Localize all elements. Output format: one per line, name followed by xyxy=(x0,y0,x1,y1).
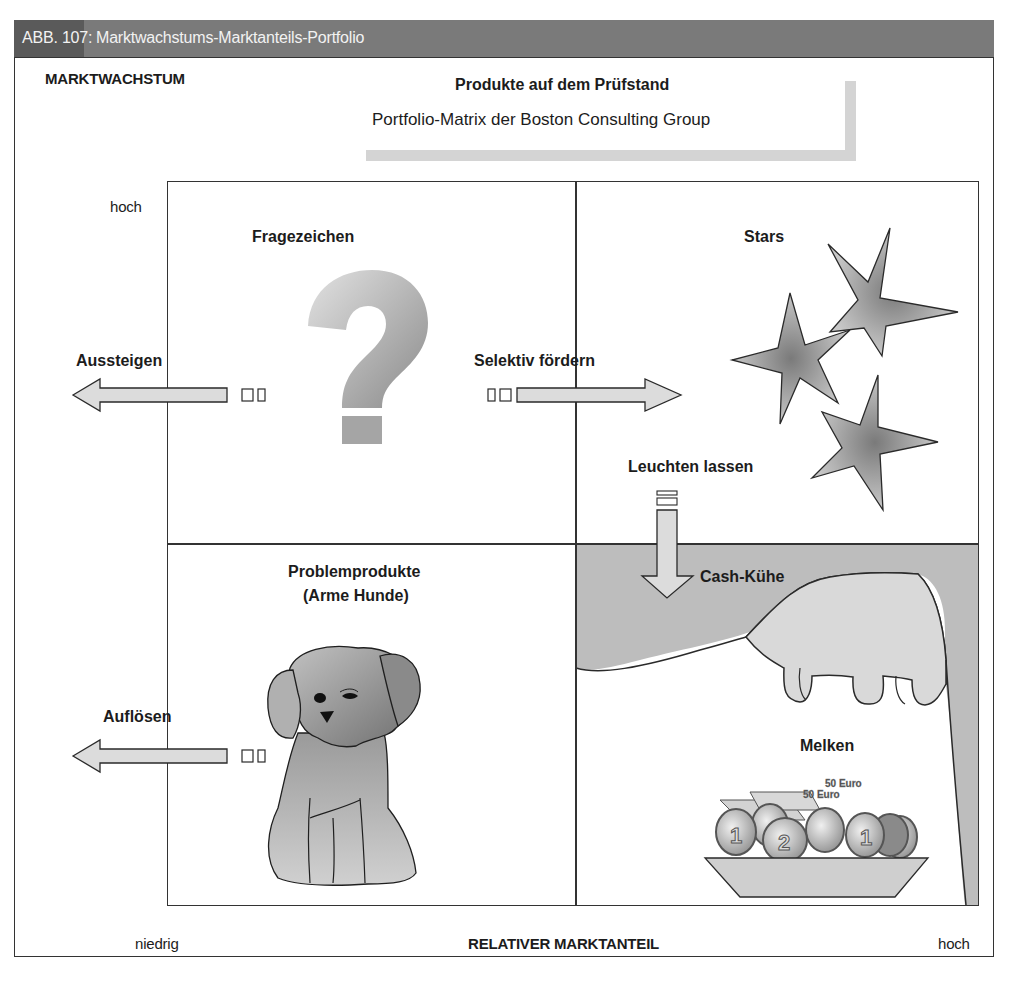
bank-note-label-2: 50 Euro xyxy=(803,789,840,800)
quadrant-label-question-marks: Fragezeichen xyxy=(252,228,354,246)
quadrant-label-dogs-line1: Problemprodukte xyxy=(288,563,420,581)
quadrant-label-cash-cows: Cash-Kühe xyxy=(700,568,784,586)
question-mark-icon xyxy=(300,268,440,448)
arrow-right-selective-invest-icon xyxy=(485,375,695,415)
coin-label-1: 1 xyxy=(730,823,742,848)
dog-icon xyxy=(238,638,438,888)
quadrant-label-dogs-line2: (Arme Hunde) xyxy=(303,587,409,605)
arrow-down-let-shine-icon xyxy=(640,488,700,608)
money-bowl-icon: 50 Euro 50 Euro 1 2 1 xyxy=(700,770,940,900)
x-axis-label: RELATIVER MARKTANTEIL xyxy=(468,935,659,952)
bank-note-label-1: 50 Euro xyxy=(825,778,862,789)
stars-icon-group xyxy=(720,220,970,530)
star-icon xyxy=(732,228,958,510)
arrow-left-exit-icon xyxy=(70,375,280,415)
coin-label-3: 1 xyxy=(860,825,872,850)
y-axis-high-label: hoch xyxy=(110,198,142,215)
strategy-selective-invest-label: Selektiv fördern xyxy=(474,352,595,370)
coin-label-2: 2 xyxy=(778,830,790,855)
x-axis-low-label: niedrig xyxy=(135,935,179,952)
x-axis-high-label: hoch xyxy=(938,935,970,952)
matrix-horizontal-divider xyxy=(167,543,979,545)
strategy-divest-label: Auflösen xyxy=(103,708,171,726)
strategy-milk-label: Melken xyxy=(800,737,854,755)
strategy-exit-label: Aussteigen xyxy=(76,352,162,370)
